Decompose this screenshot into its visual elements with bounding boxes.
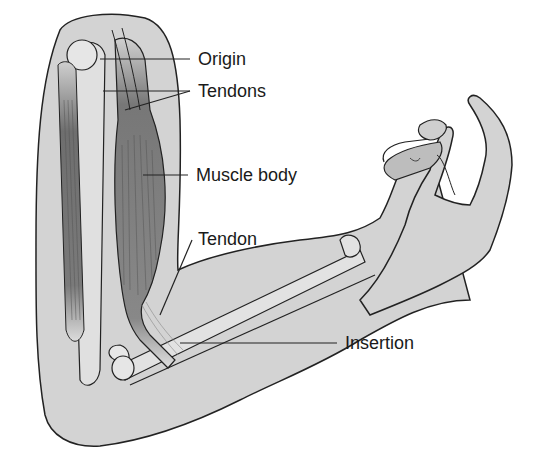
origin-label: Origin <box>198 50 246 68</box>
hand <box>360 96 512 315</box>
tendon-label: Tendon <box>198 230 257 248</box>
insertion-label: Insertion <box>345 334 414 352</box>
tendons-label: Tendons <box>198 82 266 100</box>
muscle-body-label: Muscle body <box>196 166 297 184</box>
arm-anatomy-illustration <box>0 0 538 463</box>
